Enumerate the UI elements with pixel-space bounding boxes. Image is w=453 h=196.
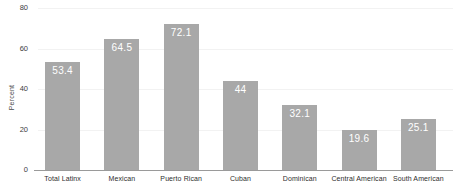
bar[interactable]: 19.6 — [342, 130, 377, 170]
x-axis-category-label: Dominican — [270, 175, 329, 182]
bar-value-label: 25.1 — [401, 122, 436, 133]
y-axis-tickmark — [34, 170, 38, 171]
y-axis-tick-label: 20 — [0, 125, 28, 134]
x-axis-category-label: Total Latinx — [33, 175, 92, 182]
bar-value-label: 44 — [223, 84, 258, 95]
x-axis-category-label: Mexican — [92, 175, 151, 182]
bar-value-label: 53.4 — [45, 65, 80, 76]
y-axis-tick-label: 80 — [0, 3, 28, 12]
x-axis-category-label: Puerto Rican — [152, 175, 211, 182]
bar[interactable]: 64.5 — [104, 39, 139, 170]
y-axis-title: Percent — [8, 68, 15, 128]
bar[interactable]: 32.1 — [282, 105, 317, 170]
x-axis-category-label: South American — [389, 175, 448, 182]
bar[interactable]: 72.1 — [164, 24, 199, 170]
plot-area: 02040608053.4Total Latinx64.5Mexican72.1… — [38, 8, 453, 170]
y-axis-tick-label: 60 — [0, 44, 28, 53]
bar[interactable]: 44 — [223, 81, 258, 170]
bar-value-label: 19.6 — [342, 133, 377, 144]
x-axis-category-label: Central American — [329, 175, 388, 182]
gridline — [38, 8, 453, 9]
gridline — [38, 49, 453, 50]
y-axis-tick-label: 0 — [0, 165, 28, 174]
bar-value-label: 32.1 — [282, 108, 317, 119]
bar[interactable]: 53.4 — [45, 62, 80, 170]
bar-value-label: 72.1 — [164, 27, 199, 38]
y-axis-tick-label: 40 — [0, 84, 28, 93]
axis-zero-line — [38, 170, 453, 171]
bar-value-label: 64.5 — [104, 42, 139, 53]
bar-chart: Percent 02040608053.4Total Latinx64.5Mex… — [0, 0, 453, 196]
bar[interactable]: 25.1 — [401, 119, 436, 170]
x-axis-category-label: Cuban — [211, 175, 270, 182]
